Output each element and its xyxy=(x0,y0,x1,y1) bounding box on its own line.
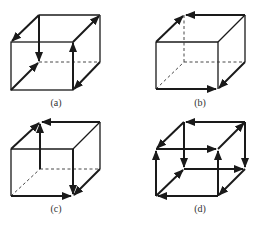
arrow-icon xyxy=(156,170,183,196)
arrow-icon xyxy=(74,62,100,89)
panel-label-d: (d) xyxy=(194,203,206,214)
arrow-icon xyxy=(219,62,245,88)
arrow-icon xyxy=(73,16,99,42)
cube-panel-a xyxy=(11,15,100,90)
cube-panel-b xyxy=(156,15,245,89)
arrow-icon xyxy=(218,123,244,149)
panel-label-b: (b) xyxy=(194,97,206,108)
arrow-icon xyxy=(156,16,183,42)
arrow-icon xyxy=(11,63,38,90)
cube-panel-c xyxy=(11,122,100,196)
panel-label-a: (a) xyxy=(50,97,61,108)
arrow-icon xyxy=(219,169,245,195)
cube-diagram xyxy=(0,0,262,234)
arrow-icon xyxy=(12,15,39,41)
arrow-icon xyxy=(157,122,184,148)
panel-label-c: (c) xyxy=(50,203,61,214)
arrow-icon xyxy=(11,123,39,149)
cube-panel-d xyxy=(156,122,245,196)
arrow-icon xyxy=(74,169,100,195)
